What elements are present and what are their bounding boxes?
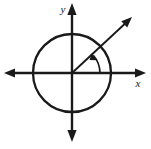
unit-circle-figure: y x — [0, 0, 151, 149]
x-axis-label: x — [135, 77, 141, 89]
figure-canvas: y x — [0, 0, 151, 149]
y-axis-top-arrowhead — [67, 3, 76, 15]
y-axis-bottom-arrowhead — [67, 130, 76, 142]
y-axis-label: y — [60, 3, 66, 15]
x-axis-left-arrowhead — [4, 69, 15, 78]
